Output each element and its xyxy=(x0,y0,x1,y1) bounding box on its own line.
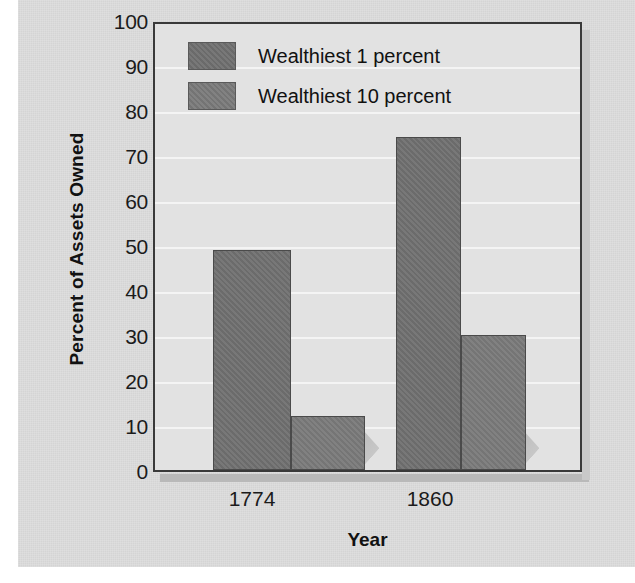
bar-1860-wealthiest-1-percent[interactable] xyxy=(396,137,461,470)
bar-face xyxy=(292,417,364,469)
gridline-50 xyxy=(155,247,580,249)
bar-shadow-1774 xyxy=(363,430,399,470)
plot-frame-shadow-right xyxy=(582,30,590,480)
bar-1860-wealthiest-10-percent[interactable] xyxy=(461,335,526,470)
y-tick-20: 20 xyxy=(100,370,148,394)
legend-entry-wealthiest-1-percent[interactable]: Wealthiest 1 percent xyxy=(188,36,518,76)
y-tick-40: 40 xyxy=(100,280,148,304)
bar-shadow-1860 xyxy=(523,430,559,470)
legend-swatch-texture xyxy=(189,43,235,69)
legend-swatch-icon-series-1 xyxy=(188,42,236,70)
legend-label-series-2: Wealthiest 10 percent xyxy=(258,85,451,108)
y-tick-100: 100 xyxy=(100,10,148,34)
bar-face xyxy=(397,138,460,469)
legend-swatch-texture xyxy=(189,83,235,109)
chart-legend: Wealthiest 1 percent Wealthiest 10 perce… xyxy=(188,36,518,116)
y-tick-70: 70 xyxy=(100,145,148,169)
chart-figure: 100 90 80 70 60 50 40 30 20 10 0 Percent… xyxy=(0,0,635,583)
y-axis-title: Percent of Assets Owned xyxy=(66,124,88,374)
plot-area: Wealthiest 1 percent Wealthiest 10 perce… xyxy=(153,22,582,472)
y-tick-90: 90 xyxy=(100,55,148,79)
legend-label-series-1: Wealthiest 1 percent xyxy=(258,45,440,68)
y-tick-10: 10 xyxy=(100,415,148,439)
gridline-70 xyxy=(155,157,580,159)
y-tick-0: 0 xyxy=(100,460,148,484)
bar-1774-wealthiest-10-percent[interactable] xyxy=(291,416,365,470)
plot-frame-shadow-bottom xyxy=(160,474,589,482)
legend-swatch-icon-series-2 xyxy=(188,82,236,110)
x-tick-1860: 1860 xyxy=(350,487,510,511)
y-tick-50: 50 xyxy=(100,235,148,259)
y-tick-30: 30 xyxy=(100,325,148,349)
gridline-60 xyxy=(155,202,580,204)
y-tick-60: 60 xyxy=(100,190,148,214)
x-tick-1774: 1774 xyxy=(172,487,332,511)
bar-1774-wealthiest-1-percent[interactable] xyxy=(213,250,291,470)
x-axis-title: Year xyxy=(153,529,582,551)
bar-face xyxy=(462,336,525,469)
y-axis-tick-labels: 100 90 80 70 60 50 40 30 20 10 0 xyxy=(100,0,148,583)
y-tick-80: 80 xyxy=(100,100,148,124)
bar-face xyxy=(214,251,290,469)
legend-entry-wealthiest-10-percent[interactable]: Wealthiest 10 percent xyxy=(188,76,518,116)
